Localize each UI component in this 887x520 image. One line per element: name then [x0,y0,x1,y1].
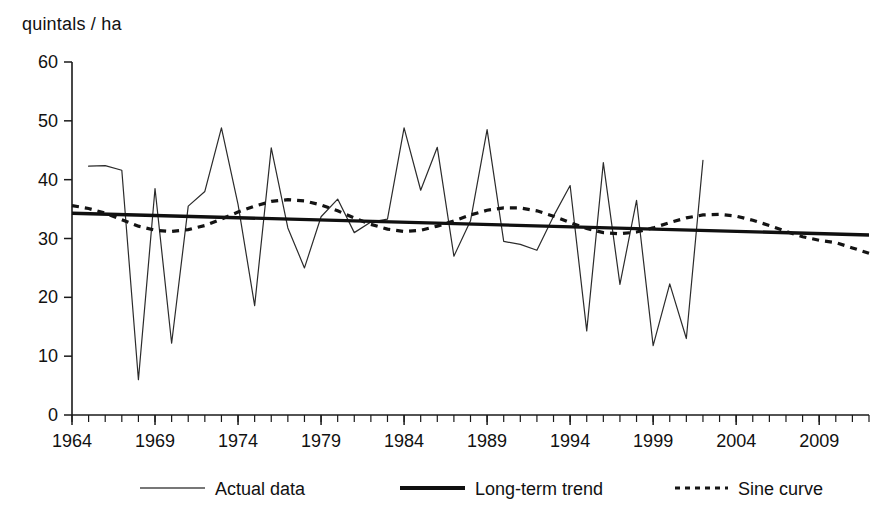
chart-plot-svg: 0102030405060 19641969197419791984198919… [0,0,887,520]
x-tick-label: 1984 [384,431,424,451]
x-tick-label: 1974 [218,431,258,451]
y-tick-label: 10 [38,346,58,366]
y-tick-group [64,62,72,415]
series-line-long-term-trend [72,213,869,235]
x-tick-label: 1999 [633,431,673,451]
chart-container: quintals / ha 0102030405060 196419691974… [0,0,887,520]
legend-label[interactable]: Sine curve [738,479,823,499]
series-line-actual-data [89,128,703,380]
x-tick-label: 1994 [550,431,590,451]
x-tick-label: 1969 [135,431,175,451]
series-line-sine-curve [72,200,869,254]
x-tick-label: 2009 [799,431,839,451]
y-tick-label: 0 [48,405,58,425]
legend-label[interactable]: Actual data [215,479,306,499]
y-tick-label: 20 [38,287,58,307]
y-tick-label: 50 [38,111,58,131]
x-minor-tick-group [72,415,869,422]
x-major-tick-group [72,415,819,425]
y-axis-group: 0102030405060 [38,52,72,425]
legend-label[interactable]: Long-term trend [475,479,603,499]
y-tick-label-group: 0102030405060 [38,52,58,425]
series-group [72,128,869,380]
x-tick-label: 2004 [716,431,756,451]
y-tick-label: 30 [38,229,58,249]
x-tick-label-group: 1964196919741979198419891994199920042009 [52,431,839,451]
chart-legend: Actual dataLong-term trendSine curve [140,479,823,499]
x-tick-label: 1989 [467,431,507,451]
x-axis-group: 1964196919741979198419891994199920042009 [52,415,869,451]
y-tick-label: 40 [38,170,58,190]
y-tick-label: 60 [38,52,58,72]
x-tick-label: 1979 [301,431,341,451]
x-tick-label: 1964 [52,431,92,451]
